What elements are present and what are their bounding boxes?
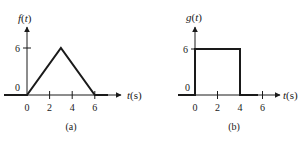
panel-b-x-tick-label-2: 2 (215, 102, 220, 113)
panel-a-ylabel: f(t) (18, 12, 32, 25)
panel-a-y-tick-label-0: 0 (15, 82, 20, 93)
panel-b-x-tick-label-6: 6 (260, 102, 265, 113)
panel-b-x-tick-label-4: 4 (238, 102, 243, 113)
panel-b-y-tick-label-0: 0 (185, 82, 190, 93)
panel-a-triangle-pulse: f(t) 6 0 0 2 4 6 t(s) (a) (4, 12, 142, 133)
panel-a-x-tick-label-6: 6 (92, 102, 97, 113)
panel-a-x-tick-label-0: 0 (25, 102, 30, 113)
panel-b-ylabel: g(t) (186, 11, 202, 24)
panel-a-caption: (a) (65, 121, 76, 133)
panel-b-caption: (b) (228, 121, 240, 133)
panel-b-x-tick-label-0: 0 (193, 102, 198, 113)
panel-a-y-tick-label-6: 6 (15, 43, 20, 54)
panel-a-xlabel: t(s) (127, 89, 142, 102)
figure: f(t) 6 0 0 2 4 6 t(s) (a) g(t) 6 0 0 2 4 (0, 0, 300, 144)
panel-b-y-tick-label-6: 6 (183, 44, 188, 55)
panel-b-xlabel: t(s) (283, 89, 298, 102)
panel-a-x-tick-label-2: 2 (47, 102, 52, 113)
panel-b-signal-line (178, 49, 258, 95)
panel-b-rectangular-pulse: g(t) 6 0 0 2 4 6 t(s) (b) (178, 11, 298, 133)
panel-a-x-tick-label-4: 4 (70, 102, 75, 113)
